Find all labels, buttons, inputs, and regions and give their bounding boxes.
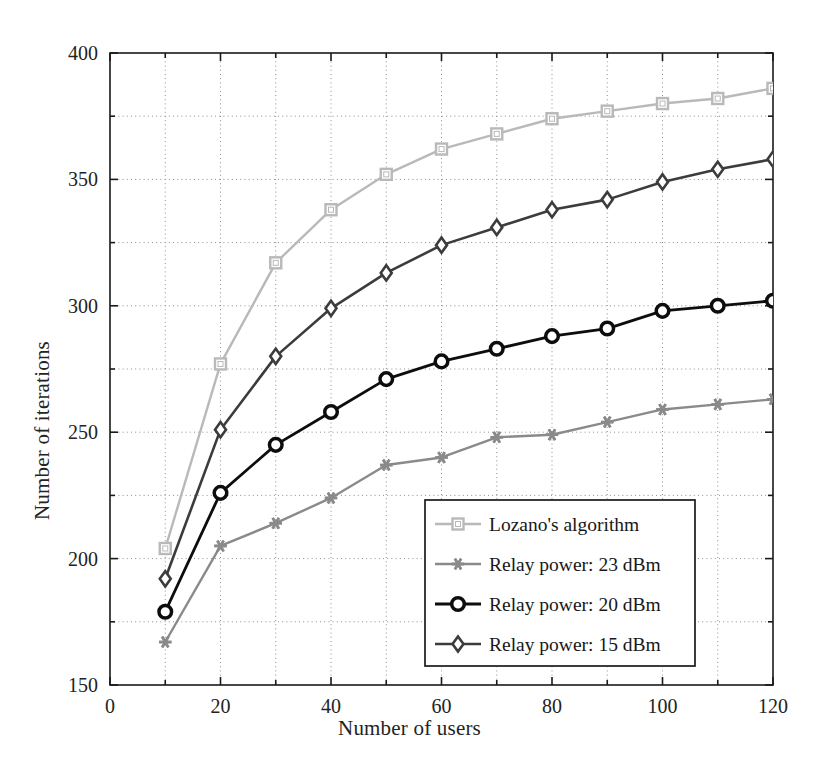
legend-label: Relay power: 20 dBm xyxy=(489,594,661,615)
chart-background xyxy=(0,0,819,766)
y-tick-label: 350 xyxy=(30,168,98,191)
data-point-square xyxy=(491,128,502,139)
legend-label: Lozano's algorithm xyxy=(489,514,639,535)
x-tick-label: 0 xyxy=(105,695,115,718)
data-point-circle xyxy=(435,355,448,368)
data-point-square xyxy=(453,519,464,530)
x-tick-label: 100 xyxy=(648,695,678,718)
legend-box: Lozano's algorithmRelay power: 23 dBmRel… xyxy=(425,500,695,666)
data-point-square xyxy=(436,144,447,155)
data-point-square xyxy=(381,169,392,180)
data-point-square xyxy=(547,113,558,124)
x-tick-label: 60 xyxy=(432,695,452,718)
data-point-circle xyxy=(490,342,503,355)
data-point-square xyxy=(270,257,281,268)
figure-container: Lozano's algorithmRelay power: 23 dBmRel… xyxy=(0,0,819,766)
data-point-square xyxy=(160,543,171,554)
data-point-square xyxy=(326,204,337,215)
chart-canvas: Lozano's algorithmRelay power: 23 dBmRel… xyxy=(0,0,819,766)
data-point-square xyxy=(712,93,723,104)
legend-label: Relay power: 15 dBm xyxy=(489,634,661,655)
data-point-square xyxy=(602,106,613,117)
data-point-circle xyxy=(711,300,724,313)
data-point-circle xyxy=(656,305,669,318)
data-point-circle xyxy=(325,406,338,419)
y-tick-label: 150 xyxy=(30,674,98,697)
legend-label: Relay power: 23 dBm xyxy=(489,554,661,575)
data-point-circle xyxy=(214,487,227,500)
y-tick-label: 250 xyxy=(30,421,98,444)
x-axis-label: Number of users xyxy=(0,716,819,741)
data-point-circle xyxy=(546,330,559,343)
data-point-circle xyxy=(380,373,393,386)
data-point-square xyxy=(215,358,226,369)
y-tick-label: 300 xyxy=(30,294,98,317)
x-tick-label: 120 xyxy=(758,695,788,718)
data-point-circle xyxy=(159,605,172,618)
data-point-circle xyxy=(269,439,282,452)
x-tick-label: 40 xyxy=(321,695,341,718)
data-point-circle xyxy=(452,598,465,611)
x-tick-label: 20 xyxy=(211,695,231,718)
x-tick-label: 80 xyxy=(542,695,562,718)
y-tick-label: 400 xyxy=(30,42,98,65)
data-point-circle xyxy=(601,322,614,335)
data-point-square xyxy=(657,98,668,109)
y-tick-label: 200 xyxy=(30,547,98,570)
